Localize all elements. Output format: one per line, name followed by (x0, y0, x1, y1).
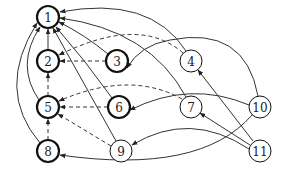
node-3: 3 (106, 50, 128, 72)
node-6: 6 (108, 96, 130, 118)
edges (17, 8, 258, 160)
node-2: 2 (37, 50, 59, 72)
edge-11-9 (132, 128, 249, 149)
node-label: 5 (44, 101, 52, 115)
node-label: 7 (187, 101, 195, 115)
node-11: 11 (249, 140, 271, 162)
node-1: 1 (37, 6, 59, 28)
node-4: 4 (180, 50, 202, 72)
edge-9-1 (53, 28, 116, 141)
node-label: 2 (44, 55, 52, 69)
node-label: 10 (252, 101, 267, 115)
node-label: 11 (252, 145, 267, 159)
node-10: 10 (249, 96, 271, 118)
edge-4-1 (60, 8, 186, 51)
node-9: 9 (110, 140, 132, 162)
directed-graph: 1 2 3 4 5 6 7 8 (0, 0, 285, 174)
edge-8-1 (17, 23, 40, 143)
node-label: 8 (44, 145, 52, 159)
node-7: 7 (180, 96, 202, 118)
node-label: 9 (117, 145, 125, 159)
node-label: 4 (187, 55, 195, 69)
node-label: 6 (115, 101, 123, 115)
edge-10-8 (60, 115, 252, 160)
edge-9-5 (58, 114, 111, 146)
node-label: 1 (44, 11, 52, 25)
node-8: 8 (37, 140, 59, 162)
node-label: 3 (113, 55, 121, 69)
edge-11-7 (200, 113, 250, 145)
node-5: 5 (37, 96, 59, 118)
